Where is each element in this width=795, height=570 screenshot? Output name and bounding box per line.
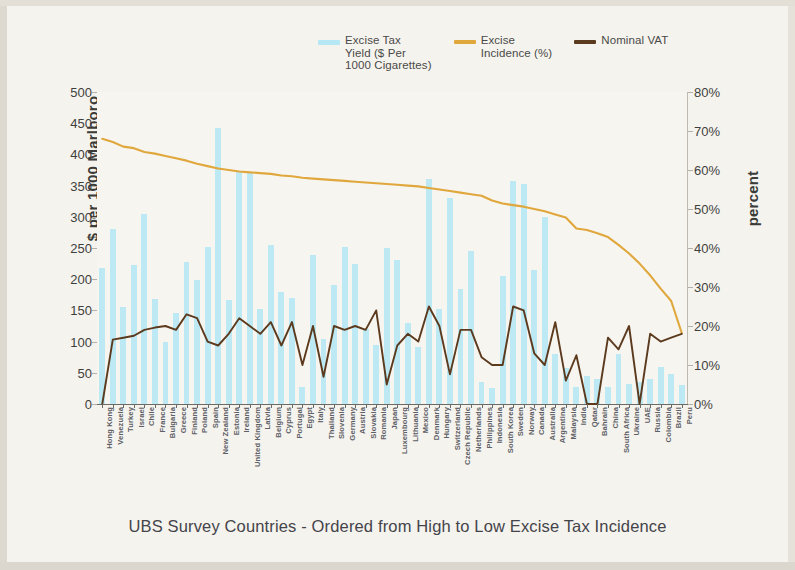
y-axis-left-tickmark [92, 373, 97, 374]
y-axis-right-tickmark [688, 209, 693, 210]
x-axis-tickmark [366, 404, 367, 408]
page-edge-bottom [0, 562, 795, 570]
x-axis-category-label: France [158, 407, 167, 433]
x-axis-category-label: Chile [147, 407, 156, 426]
y-axis-left-tickmark [92, 92, 97, 93]
x-axis-tickmark [229, 404, 230, 408]
x-axis-tickmark [324, 404, 325, 408]
x-axis-tickmark [450, 404, 451, 408]
x-axis-tickmark [682, 404, 683, 408]
x-axis-tickmark [555, 404, 556, 408]
y-axis-left-tick-label: 50 [78, 365, 92, 380]
page-edge-left [0, 0, 7, 570]
x-axis-tickmark [197, 404, 198, 408]
y-axis-left-tickmark [92, 154, 97, 155]
x-axis-category-label: Argentina [558, 407, 567, 443]
x-axis-tickmark [439, 404, 440, 408]
y-axis-left-tickmark [92, 310, 97, 311]
x-axis-tickmark [102, 404, 103, 408]
y-axis-right-tickmark [688, 248, 693, 249]
x-axis-tickmark [629, 404, 630, 408]
chart-legend: Excise Tax Yield ($ Per 1000 Cigarettes)… [318, 34, 678, 82]
y-axis-left-tickmark [92, 217, 97, 218]
x-axis-tickmark [524, 404, 525, 408]
x-axis-category-label: United Kingdom [253, 407, 262, 467]
x-axis-tickmark [134, 404, 135, 408]
page-edge-top [0, 0, 795, 6]
x-axis-category-label: Switzerland [453, 407, 462, 450]
x-axis-category-label: South Korea [506, 407, 515, 453]
y-axis-right-tick-label: 80% [694, 85, 720, 100]
y-axis-left-tickmark [92, 342, 97, 343]
x-axis-tickmark [640, 404, 641, 408]
x-axis-tickmark [250, 404, 251, 408]
x-axis-category-label: Ireland [242, 407, 251, 433]
x-axis-tickmark [271, 404, 272, 408]
y-axis-right-tickmark [688, 365, 693, 366]
y-axis-left-tick-label: 400 [70, 147, 92, 162]
y-axis-right-tickmark [688, 131, 693, 132]
x-axis-category-label: Sweden [516, 407, 525, 436]
y-axis-left-tick-label: 300 [70, 209, 92, 224]
legend-label: Excise Incidence (%) [481, 34, 553, 59]
y-axis-right-title: percent [744, 119, 761, 279]
x-axis-tickmark [113, 404, 114, 408]
legend-label: Nominal VAT [601, 34, 668, 47]
x-axis-tickmark [608, 404, 609, 408]
y-axis-right-tickmark [688, 326, 693, 327]
legend-swatch-icon [574, 40, 596, 44]
x-axis-tickmark [123, 404, 124, 408]
x-axis-category-label: Indonesia [495, 407, 504, 443]
y-axis-left-tick-label: 250 [70, 241, 92, 256]
x-axis-tickmark [387, 404, 388, 408]
x-axis-tickmark [208, 404, 209, 408]
x-axis-tickmark [619, 404, 620, 408]
x-axis-category-label: Thailand [327, 407, 336, 439]
x-axis-category-label: Estonia [232, 407, 241, 435]
x-axis-category-label: Ukraine [632, 407, 641, 436]
x-axis-category-label: New Zealand [221, 407, 230, 455]
x-axis-category-label: Finland [190, 407, 199, 435]
chart-caption: UBS Survey Countries - Ordered from High… [0, 517, 795, 536]
x-axis-tickmark [597, 404, 598, 408]
x-axis-tickmark [482, 404, 483, 408]
x-axis-category-label: Netherlands [474, 407, 483, 452]
x-axis-category-label: Canada [537, 407, 546, 435]
y-axis-right-tick-label: 10% [694, 358, 720, 373]
excise-incidence-line [102, 139, 681, 333]
x-axis-tickmark [281, 404, 282, 408]
x-axis-tickmark [345, 404, 346, 408]
nominal-vat-line [102, 307, 681, 405]
legend-swatch-icon [318, 40, 340, 45]
x-axis-category-label: Norway [527, 407, 536, 435]
x-axis-category-label: Qatar [590, 407, 599, 427]
y-axis-right-tickmark [688, 404, 693, 405]
x-axis-category-label: Slovakia [369, 407, 378, 439]
y-axis-right-tick-label: 50% [694, 202, 720, 217]
legend-label: Excise Tax Yield ($ Per 1000 Cigarettes) [345, 34, 432, 72]
x-axis-tickmark [566, 404, 567, 408]
x-axis-tickmark [576, 404, 577, 408]
x-axis-tickmark [355, 404, 356, 408]
x-axis-tickmark [376, 404, 377, 408]
x-axis-tickmark [429, 404, 430, 408]
x-axis-tickmark [302, 404, 303, 408]
x-axis-category-label: China [611, 407, 620, 429]
x-axis-tickmark [155, 404, 156, 408]
x-axis-tickmark [187, 404, 188, 408]
x-axis-tickmark [503, 404, 504, 408]
y-axis-left-tick-label: 350 [70, 178, 92, 193]
x-axis-category-label: Cyprus [284, 407, 293, 434]
y-axis-right-tickmark [688, 287, 693, 288]
x-axis-category-label: Venezuela [116, 407, 125, 445]
legend-item-0: Excise Tax Yield ($ Per 1000 Cigarettes) [318, 34, 432, 72]
x-axis-category-label: Australia [548, 407, 557, 440]
x-axis-tickmark [661, 404, 662, 408]
x-axis-tickmark [218, 404, 219, 408]
x-axis-tickmark [545, 404, 546, 408]
x-axis-tickmark [334, 404, 335, 408]
legend-item-2: Nominal VAT [574, 34, 668, 47]
x-axis-category-label: Greece [179, 407, 188, 433]
x-axis-category-label: Lithuania [411, 407, 420, 442]
y-axis-left-tickmark [92, 248, 97, 249]
